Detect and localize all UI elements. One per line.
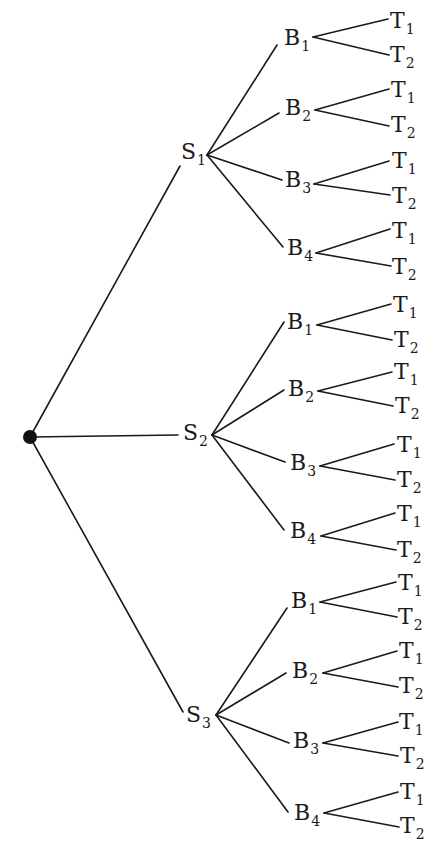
node-s1-b2-t1-subscript: 1 (407, 90, 416, 106)
node-s2-b1-t1-letter: T (393, 292, 408, 317)
node-s1-b1-t2-subscript: 2 (406, 55, 415, 71)
node-s2-b4-subscript: 4 (307, 531, 316, 547)
edge-s3-b2-to-t1 (323, 651, 397, 673)
node-s2-b2: B2 (288, 378, 314, 400)
node-s3-b2-t1: T1 (399, 640, 424, 662)
node-s2-b2-letter: B (288, 376, 304, 401)
node-s3-b1-letter: B (291, 588, 307, 613)
edge-s3-to-b2 (216, 673, 286, 715)
node-s2-b2-t2-letter: T (395, 393, 410, 418)
edge-s1-b4-to-t2 (316, 253, 391, 266)
node-s1-b3-t1-letter: T (392, 148, 407, 173)
node-s1-b4: B4 (287, 237, 313, 259)
node-s1-subscript: 1 (197, 152, 206, 168)
edge-s3-b3-to-t2 (323, 743, 398, 756)
node-s3-subscript: 3 (202, 715, 211, 731)
node-s1-b2: B2 (285, 97, 311, 119)
node-s1-b2-letter: B (285, 95, 301, 120)
node-s2-b3-t1: T1 (397, 434, 422, 456)
edge-s3-b2-to-t2 (323, 673, 398, 687)
node-s2-b2-t1-letter: T (394, 359, 409, 384)
node-s1-b3-t2-letter: T (392, 183, 407, 208)
node-s3-b3-t1-letter: T (399, 709, 414, 734)
node-s2-b4-t1-subscript: 1 (413, 514, 422, 530)
node-s1-b3-t2: T2 (392, 185, 417, 207)
node-s1-b4-t1-letter: T (392, 218, 407, 243)
node-s1-b2-subscript: 2 (302, 108, 311, 124)
node-s1-b3-t1: T1 (392, 150, 417, 172)
node-s2-b3: B3 (290, 452, 316, 474)
edge-s3-to-b1 (216, 608, 287, 715)
node-s2-b3-t2-letter: T (397, 467, 412, 492)
edge-s1-b1-to-t2 (313, 37, 389, 55)
node-s3-b2-letter: B (292, 658, 308, 683)
node-s3-b1-t2: T2 (398, 606, 423, 628)
edge-s1-to-b2 (207, 113, 279, 155)
node-s3-b4-t1-letter: T (400, 779, 415, 804)
node-s3-b3-t1: T1 (399, 711, 424, 733)
node-s3-b3-letter: B (293, 728, 309, 753)
node-s2-b1-t1-subscript: 1 (409, 305, 418, 321)
node-s1-b4-t2-subscript: 2 (408, 267, 417, 283)
edge-s1-b2-to-t1 (315, 89, 389, 110)
edge-s2-b3-to-t2 (320, 466, 395, 480)
node-s1-letter: S (181, 139, 196, 164)
node-s2-b4-t2-letter: T (397, 537, 412, 562)
edge-s2-b2-to-t2 (318, 391, 393, 406)
node-s1-b3-letter: B (285, 167, 301, 192)
node-s3-b1-t1-letter: T (398, 570, 413, 595)
node-s1-b4-t2-letter: T (392, 254, 407, 279)
edge-s2-to-b2 (212, 390, 284, 435)
edge-s2-b3-to-t1 (320, 444, 394, 466)
node-s3-b1-t1: T1 (398, 572, 423, 594)
node-s1-b1: B1 (284, 27, 310, 49)
node-s3-b2-subscript: 2 (309, 671, 318, 687)
edge-s1-to-b4 (207, 155, 283, 247)
node-s2-b3-t1-subscript: 1 (413, 445, 422, 461)
node-s3-b3: B3 (293, 730, 319, 752)
node-s1-b3-subscript: 3 (302, 180, 311, 196)
edge-root-to-s3 (30, 437, 183, 712)
node-s1-b2-t2: T2 (391, 114, 416, 136)
edge-s3-b4-to-t1 (324, 792, 398, 813)
node-s3-b2-t2-subscript: 2 (415, 686, 424, 702)
node-s3-b1: B1 (291, 590, 317, 612)
edge-s1-b1-to-t1 (313, 19, 388, 37)
node-s2-b2-t2: T2 (395, 395, 420, 417)
edge-s2-b4-to-t1 (321, 513, 395, 536)
edge-s3-b1-to-t1 (320, 582, 396, 602)
node-s1-b1-t2-letter: T (390, 42, 405, 67)
node-s1-b3: B3 (285, 169, 311, 191)
node-s2-b4-t2: T2 (397, 539, 422, 561)
node-s2-b3-letter: B (290, 450, 306, 475)
node-s2-b4-t2-subscript: 2 (413, 550, 422, 566)
node-s2-b3-subscript: 3 (307, 463, 316, 479)
node-s1-b4-t1: T1 (392, 220, 417, 242)
node-s2-b4-t1-letter: T (397, 501, 412, 526)
node-s3-b2-t1-subscript: 1 (415, 651, 424, 667)
node-s2-b1-t2: T2 (394, 329, 419, 351)
node-s2-b2-t1-subscript: 1 (410, 372, 419, 388)
node-s3-b3-t2-subscript: 2 (416, 756, 425, 772)
node-s1-b3-t2-subscript: 2 (408, 196, 417, 212)
node-s2-b3-t2: T2 (397, 469, 422, 491)
node-s3-b3-t1-subscript: 1 (415, 722, 424, 738)
node-s2-b4-letter: B (290, 518, 306, 543)
node-s3-b1-t1-subscript: 1 (414, 583, 423, 599)
edge-s3-b4-to-t2 (324, 813, 399, 827)
node-s1: S1 (181, 141, 206, 163)
node-s2-b4: B4 (290, 520, 316, 542)
node-s1-b4-t1-subscript: 1 (408, 231, 417, 247)
node-s1-b1-t2: T2 (390, 44, 415, 66)
node-s3-b2-t1-letter: T (399, 638, 414, 663)
edge-s3-b1-to-t2 (320, 602, 397, 617)
node-s2-b1-subscript: 1 (304, 322, 313, 338)
edge-s2-to-b4 (212, 435, 284, 530)
node-s3-b3-t2: T2 (400, 745, 425, 767)
root-node-dot (23, 430, 37, 444)
tree-edges (0, 0, 441, 860)
node-s1-b2-t2-subscript: 2 (407, 125, 416, 141)
node-s2-b2-t2-subscript: 2 (411, 406, 420, 422)
node-s2-b1-letter: B (287, 309, 303, 334)
node-s1-b4-t2: T2 (392, 256, 417, 278)
